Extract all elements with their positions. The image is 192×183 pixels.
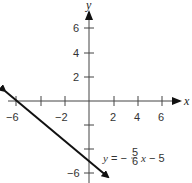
x-axis-label: x bbox=[183, 94, 190, 108]
y-tick-label: −6 bbox=[67, 167, 80, 179]
x-tick-label: 4 bbox=[134, 111, 140, 123]
fraction-denominator: 6 bbox=[132, 155, 138, 167]
x-tick-label: −6 bbox=[6, 111, 19, 123]
y-tick-label: 4 bbox=[73, 47, 79, 59]
y-axis-label: y bbox=[85, 0, 92, 12]
y-tick-label: 6 bbox=[73, 22, 79, 34]
x-tick-label: −2 bbox=[55, 111, 68, 123]
svg-text:x − 5: x − 5 bbox=[140, 152, 165, 164]
x-tick-label: 2 bbox=[110, 111, 116, 123]
svg-text:y = −: y = − bbox=[102, 152, 127, 164]
function-line bbox=[5, 91, 108, 177]
y-tick-label: 2 bbox=[73, 71, 79, 83]
coordinate-plane: −6 −2 2 4 6 6 4 2 −6 y x y = − 5 6 x − 5 bbox=[0, 0, 192, 183]
equation-label: y = − 5 6 x − 5 bbox=[102, 146, 165, 167]
x-tick-label: 6 bbox=[158, 111, 164, 123]
